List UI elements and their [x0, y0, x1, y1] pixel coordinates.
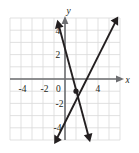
- intersection-point: [73, 89, 78, 94]
- x-tick-label--2: -2: [41, 84, 49, 94]
- y-tick-label--2: -2: [56, 99, 64, 109]
- y-axis-label: y: [66, 6, 72, 16]
- x-tick-label-4: 4: [96, 84, 101, 94]
- x-axis-label: x: [125, 75, 131, 85]
- y-tick-label--4: -4: [54, 123, 62, 133]
- x-tick-label-0: 0: [56, 84, 61, 94]
- coordinate-graph-figure: -4 -2 0 4 4 2 -2 -4 x y: [0, 0, 139, 153]
- y-tick-label-4: 4: [56, 26, 61, 36]
- graph-canvas: -4 -2 0 4 4 2 -2 -4 x y: [0, 0, 139, 153]
- y-tick-label-2: 2: [56, 50, 61, 60]
- x-tick-label--4: -4: [19, 84, 27, 94]
